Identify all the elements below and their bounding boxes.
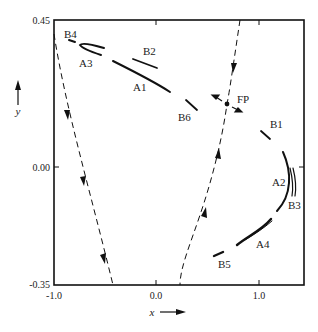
- x-axis-label: x: [149, 306, 155, 318]
- y-tick-top: 0.45: [33, 15, 51, 26]
- stable-manifold-arrow-icon: [215, 148, 221, 159]
- trajectory-B5: [214, 252, 223, 256]
- label-A3: A3: [79, 57, 93, 69]
- label-A1: A1: [133, 81, 146, 93]
- left-separatrix-arrow-icon: [100, 253, 106, 264]
- y-tick-zero: 0.00: [33, 162, 51, 173]
- left-separatrix-arrow-icon: [64, 110, 70, 120]
- phase-portrait: 0.45 0.00 -0.35 -1.0 0.0 1.0 x y FP: [0, 0, 318, 332]
- x-tick-zero: 0.0: [150, 290, 163, 301]
- label-B5: B5: [218, 258, 231, 270]
- x-axis-arrow-icon: [160, 309, 186, 315]
- x-axis-ticks: [156, 20, 259, 285]
- label-B6: B6: [178, 111, 191, 123]
- trajectory-B2: [133, 59, 157, 68]
- trajectories: [69, 40, 296, 256]
- label-B2: B2: [143, 45, 156, 57]
- trajectory-A3: [80, 44, 104, 55]
- y-axis-label: y: [15, 105, 21, 117]
- label-B1: B1: [270, 118, 283, 130]
- y-tick-bottom: -0.35: [29, 279, 50, 290]
- y-axis-arrow-icon: [15, 80, 21, 105]
- label-B4: B4: [64, 28, 77, 40]
- stable-manifold: [180, 20, 240, 285]
- left-separatrix-arrow-icon: [80, 176, 86, 186]
- label-A4: A4: [256, 238, 270, 250]
- left-separatrix: [54, 34, 113, 285]
- x-tick-one: 1.0: [253, 290, 266, 301]
- label-B3: B3: [288, 199, 301, 211]
- trajectory-B6: [186, 100, 197, 110]
- trajectory-B4: [69, 40, 75, 42]
- x-tick-left: -1.0: [46, 290, 62, 301]
- trajectory-B3: [290, 168, 296, 196]
- trajectory-B1: [261, 131, 270, 139]
- label-A2: A2: [272, 176, 285, 188]
- fixed-point-label: FP: [237, 93, 249, 105]
- fixed-point-marker: [225, 102, 230, 107]
